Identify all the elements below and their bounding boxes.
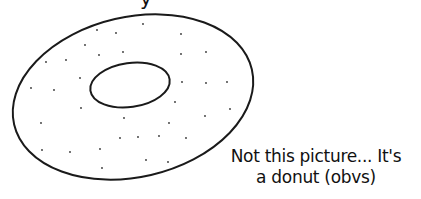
- caption: Not this picture... It's a donut (obvs): [214, 146, 418, 188]
- sprinkle-dots: [30, 23, 231, 169]
- caption-line-1: Not this picture... It's: [214, 146, 418, 167]
- donut-hole: [87, 58, 172, 113]
- caption-line-2: a donut (obvs): [214, 167, 418, 188]
